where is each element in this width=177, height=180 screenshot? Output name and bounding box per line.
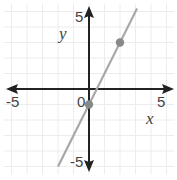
plot-line xyxy=(58,8,137,166)
y-tick-neg5: -5 xyxy=(70,154,83,169)
y-axis-label: y xyxy=(59,25,67,42)
x-axis-label: x xyxy=(146,110,154,127)
y-tick-5: 5 xyxy=(75,9,83,24)
origin-label: 0 xyxy=(77,94,85,109)
coordinate-plane xyxy=(0,0,177,180)
x-tick-neg5: -5 xyxy=(6,94,19,109)
axes xyxy=(6,6,174,172)
x-tick-5: 5 xyxy=(157,94,165,109)
